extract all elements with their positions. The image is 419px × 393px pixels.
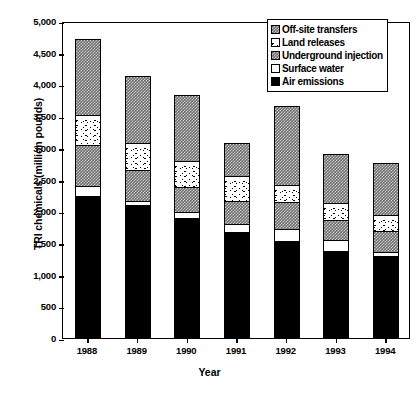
bar-segment[interactable]: [324, 251, 348, 338]
legend-item[interactable]: Air emissions: [271, 75, 383, 88]
x-tick-label: 1994: [355, 345, 415, 356]
y-tick-label: 1,500: [33, 238, 56, 249]
x-tick-mark: [236, 338, 238, 343]
stacked-bar[interactable]: [323, 154, 349, 338]
stacked-bar[interactable]: [274, 106, 300, 338]
y-tick-mark: [59, 340, 64, 342]
y-tick-label: 2,500: [33, 175, 56, 186]
gray-checker-swatch-icon: [271, 25, 280, 34]
y-tick-label: 5,000: [33, 16, 56, 27]
y-tick-label: 3,500: [33, 111, 56, 122]
bar-segment[interactable]: [225, 224, 249, 232]
bar-segment[interactable]: [374, 164, 398, 215]
stacked-bar[interactable]: [373, 163, 399, 338]
x-tick-mark: [137, 338, 139, 343]
y-tick-label: 0: [51, 333, 56, 344]
stacked-bar[interactable]: [125, 76, 151, 338]
y-tick-label: 4,000: [33, 79, 56, 90]
bar-segment[interactable]: [126, 143, 150, 170]
bar-segment[interactable]: [76, 115, 100, 145]
bar-segment[interactable]: [275, 229, 299, 241]
bar-segment[interactable]: [126, 170, 150, 201]
bar-segment[interactable]: [225, 176, 249, 201]
bar-segment[interactable]: [275, 202, 299, 229]
bar-segment[interactable]: [275, 185, 299, 202]
bar-segment[interactable]: [175, 96, 199, 161]
bar-segment[interactable]: [225, 232, 249, 339]
bar-segment[interactable]: [324, 220, 348, 240]
x-tick-mark: [187, 338, 189, 343]
stacked-bar[interactable]: [174, 95, 200, 338]
legend-item[interactable]: Surface water: [271, 62, 383, 75]
stacked-bar[interactable]: [224, 143, 250, 338]
bar-segment[interactable]: [324, 203, 348, 220]
chart-legend: Off-site transfersLand releasesUndergrou…: [267, 19, 388, 92]
gray-checker-swatch-icon: [271, 51, 280, 60]
bar-segment[interactable]: [76, 196, 100, 339]
bar-segment[interactable]: [76, 145, 100, 186]
bar-segment[interactable]: [175, 187, 199, 212]
bar-segment[interactable]: [175, 218, 199, 339]
bar-segment[interactable]: [374, 215, 398, 231]
x-tick-mark: [87, 338, 89, 343]
y-tick-label: 2,000: [33, 206, 56, 217]
legend-item-label: Underground injection: [282, 50, 383, 61]
legend-item-label: Surface water: [282, 63, 344, 74]
stacked-bar-chart: TRI chemicals (million pounds) 5,0004,50…: [0, 0, 419, 393]
speckle-swatch-icon: [271, 38, 280, 47]
bar-segment[interactable]: [374, 231, 398, 252]
bar-segment[interactable]: [374, 256, 398, 339]
legend-item[interactable]: Land releases: [271, 36, 383, 49]
black-swatch-icon: [271, 77, 280, 86]
bar-segment[interactable]: [324, 155, 348, 204]
bar-segment[interactable]: [275, 241, 299, 339]
bar-segment[interactable]: [175, 161, 199, 187]
y-tick-label: 1,000: [33, 270, 56, 281]
legend-item[interactable]: Off-site transfers: [271, 23, 383, 36]
legend-item-label: Land releases: [282, 37, 345, 48]
x-tick-mark: [385, 338, 387, 343]
bar-segment[interactable]: [275, 107, 299, 185]
x-tick-mark: [286, 338, 288, 343]
legend-item-label: Air emissions: [282, 76, 344, 87]
y-tick-label: 4,500: [33, 48, 56, 59]
x-tick-mark: [336, 338, 338, 343]
x-axis-title: Year: [0, 366, 419, 378]
y-tick-label: 500: [41, 301, 56, 312]
legend-item-label: Off-site transfers: [282, 24, 357, 35]
bar-segment[interactable]: [225, 201, 249, 224]
legend-item[interactable]: Underground injection: [271, 49, 383, 62]
y-tick-label: 3,000: [33, 143, 56, 154]
bar-segment[interactable]: [225, 144, 249, 176]
stacked-bar[interactable]: [75, 39, 101, 338]
bar-segment[interactable]: [324, 240, 348, 251]
white-swatch-icon: [271, 64, 280, 73]
bar-segment[interactable]: [126, 205, 150, 339]
bar-segment[interactable]: [126, 77, 150, 144]
bar-segment[interactable]: [76, 186, 100, 197]
bar-segment[interactable]: [76, 40, 100, 115]
